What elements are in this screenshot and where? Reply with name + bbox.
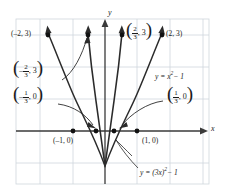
point-1-0 <box>135 129 140 134</box>
rparen: ) <box>37 57 43 78</box>
fraction-2-3: 23 <box>132 26 138 41</box>
equation-narrow-parabola: y = (3x)2− 1 <box>140 166 178 177</box>
lparen: ( <box>13 57 19 78</box>
y-axis-label: y <box>108 8 112 17</box>
label-point-neg2-3: (–2, 3) <box>11 29 31 38</box>
point-23-3 <box>120 33 125 38</box>
rparen: ) <box>187 83 193 104</box>
equation-head: y = x <box>155 72 170 81</box>
label-point-1-0: (1, 0) <box>142 136 158 145</box>
rparen: ) <box>146 19 152 40</box>
x-axis-label: x <box>211 124 215 133</box>
equation-wide-parabola: y = x2− 1 <box>155 70 184 81</box>
label-point-neg23-3: (–23, 3) <box>13 64 43 79</box>
fraction-denominator: 3 <box>173 97 179 105</box>
fraction-numerator: 2 <box>23 64 29 71</box>
label-point-2-3: (2, 3) <box>166 29 182 38</box>
rparen: ) <box>37 83 43 104</box>
coord-tail: , 3 <box>29 66 37 75</box>
equation-head: y = (3x) <box>140 168 164 177</box>
equation-tail: − 1 <box>167 168 178 177</box>
fraction-denominator: 3 <box>23 97 29 105</box>
label-point-neg1-0: (–1, 0) <box>53 136 73 145</box>
fraction-2-3: 23 <box>23 64 29 79</box>
point-2-3 <box>160 33 165 38</box>
point-neg2-3 <box>46 33 51 38</box>
coord-tail: , 0 <box>179 92 187 101</box>
fraction-numerator: 2 <box>132 26 138 33</box>
fraction-1-3: 13 <box>23 90 29 105</box>
coord-tail: , 3 <box>138 28 146 37</box>
point-neg1-0 <box>71 129 76 134</box>
point-neg13-0 <box>94 129 99 134</box>
label-point-13-0: (13, 0) <box>167 90 193 105</box>
fraction-numerator: 1 <box>23 90 29 97</box>
fraction-1-3: 13 <box>173 90 179 105</box>
fraction-denominator: 3 <box>132 33 138 41</box>
equation-tail: − 1 <box>173 72 184 81</box>
point-neg23-3 <box>86 33 91 38</box>
lparen: ( <box>13 83 19 104</box>
fraction-numerator: 1 <box>173 90 179 97</box>
point-13-0 <box>112 129 117 134</box>
fraction-denominator: 3 <box>23 71 29 79</box>
label-point-23-3: (23, 3) <box>126 26 152 41</box>
figure-container: (–2, 3) (2, 3) (–1, 0) (1, 0) (–23, 3) (… <box>0 0 226 192</box>
label-point-neg13-0: (–13, 0) <box>13 90 43 105</box>
coord-tail: , 0 <box>29 92 37 101</box>
